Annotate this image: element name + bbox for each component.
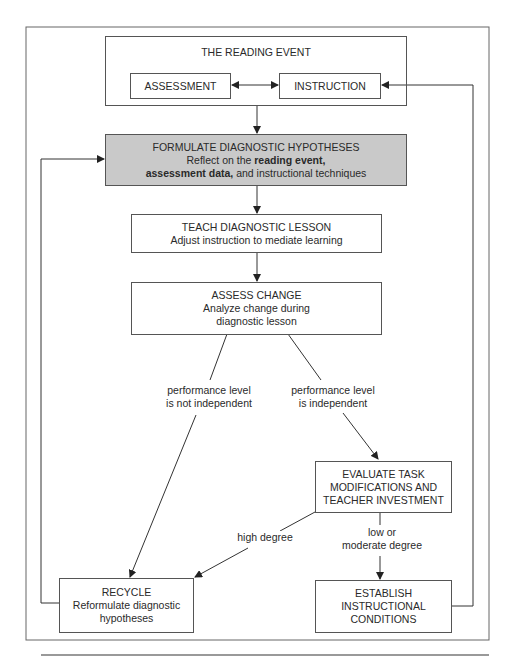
formulate-line2-suffix: and instructional techniques bbox=[233, 167, 366, 179]
low-moderate-line1: low or bbox=[336, 526, 428, 539]
not-independent-line-top bbox=[210, 334, 227, 380]
formulate-line2: assessment data, and instructional techn… bbox=[146, 167, 367, 180]
not-independent-line1: performance level bbox=[154, 384, 264, 397]
not-independent-label: performance level is not independent bbox=[152, 384, 266, 410]
formulate-line1-prefix: Reflect on the bbox=[187, 154, 255, 166]
evaluate-line2: MODIFICATIONS AND bbox=[330, 481, 437, 494]
establish-conditions-box: ESTABLISH INSTRUCTIONAL CONDITIONS bbox=[315, 580, 452, 633]
not-independent-line2: is not independent bbox=[154, 397, 264, 410]
independent-line1: performance level bbox=[278, 384, 388, 397]
independent-arrow bbox=[343, 413, 378, 459]
evaluate-line1: EVALUATE TASK bbox=[342, 468, 425, 481]
recycle-feedback-arrow bbox=[41, 159, 104, 603]
formulate-line2-bold: assessment data, bbox=[146, 167, 234, 179]
high-degree-label: high degree bbox=[230, 531, 300, 544]
independent-label: performance level is independent bbox=[276, 384, 390, 410]
assess-change-title: ASSESS CHANGE bbox=[212, 289, 302, 302]
independent-line2: is independent bbox=[278, 397, 388, 410]
recycle-line2: hypotheses bbox=[100, 612, 154, 625]
independent-line-top bbox=[288, 334, 321, 380]
assess-change-box: ASSESS CHANGE Analyze change during diag… bbox=[131, 282, 382, 335]
high-degree-line-top bbox=[280, 512, 315, 531]
instruction-box: INSTRUCTION bbox=[279, 73, 381, 99]
assess-change-line1: Analyze change during bbox=[203, 302, 310, 315]
assessment-box: ASSESSMENT bbox=[130, 73, 231, 99]
high-degree-arrow bbox=[195, 548, 248, 577]
formulate-line1: Reflect on the reading event, bbox=[187, 154, 326, 167]
assessment-label: ASSESSMENT bbox=[145, 80, 217, 93]
low-moderate-label: low or moderate degree bbox=[334, 526, 430, 552]
establish-line2: INSTRUCTIONAL bbox=[341, 600, 426, 613]
teach-title: TEACH DIAGNOSTIC LESSON bbox=[182, 221, 331, 234]
recycle-box: RECYCLE Reformulate diagnostic hypothese… bbox=[59, 578, 194, 633]
reading-event-title: THE READING EVENT bbox=[201, 46, 311, 59]
recycle-line1: Reformulate diagnostic bbox=[73, 599, 180, 612]
teach-lesson-box: TEACH DIAGNOSTIC LESSON Adjust instructi… bbox=[131, 214, 382, 253]
not-independent-arrow bbox=[130, 415, 196, 577]
formulate-title: FORMULATE DIAGNOSTIC HYPOTHESES bbox=[153, 141, 360, 154]
formulate-line1-bold: reading event, bbox=[254, 154, 325, 166]
establish-line1: ESTABLISH bbox=[355, 587, 412, 600]
evaluate-task-box: EVALUATE TASK MODIFICATIONS AND TEACHER … bbox=[315, 461, 452, 513]
formulate-hypotheses-box: FORMULATE DIAGNOSTIC HYPOTHESES Reflect … bbox=[105, 134, 407, 186]
evaluate-line3: TEACHER INVESTMENT bbox=[323, 494, 444, 507]
assess-change-line2: diagnostic lesson bbox=[216, 315, 297, 328]
high-degree-text: high degree bbox=[237, 531, 292, 543]
teach-subtitle: Adjust instruction to mediate learning bbox=[170, 234, 342, 247]
low-moderate-line2: moderate degree bbox=[336, 539, 428, 552]
recycle-title: RECYCLE bbox=[102, 586, 152, 599]
instruction-label: INSTRUCTION bbox=[294, 80, 366, 93]
establish-line3: CONDITIONS bbox=[351, 613, 417, 626]
